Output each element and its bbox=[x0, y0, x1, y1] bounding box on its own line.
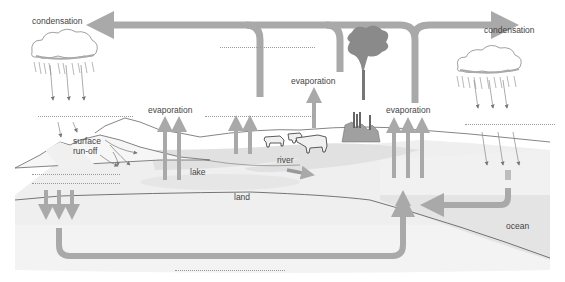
answer-blank-right-precipitation[interactable] bbox=[465, 124, 555, 125]
answer-blank-left-precipitation[interactable] bbox=[38, 116, 133, 117]
cloud-left bbox=[32, 29, 98, 100]
factory bbox=[342, 25, 388, 142]
label-condensation-left: condensation bbox=[32, 17, 83, 26]
cloud-right bbox=[457, 45, 521, 108]
label-surface: surface bbox=[73, 137, 101, 146]
label-evaporation-lake: evaporation bbox=[148, 106, 192, 115]
ocean-drop-marker bbox=[505, 170, 511, 180]
label-river: river bbox=[277, 156, 294, 165]
answer-blank-infiltration-2[interactable] bbox=[32, 183, 120, 184]
label-condensation-right: condensation bbox=[484, 26, 535, 35]
answer-blank-top-center[interactable] bbox=[220, 47, 315, 48]
label-evaporation-center: evaporation bbox=[291, 77, 335, 86]
answer-blank-infiltration-1[interactable] bbox=[32, 174, 120, 175]
answer-blank-bottom[interactable] bbox=[175, 270, 285, 271]
label-land: land bbox=[234, 193, 250, 202]
answer-blank-above-lake[interactable] bbox=[205, 116, 313, 117]
cycle-flow-arrows bbox=[100, 25, 505, 103]
label-ocean: ocean bbox=[506, 222, 529, 231]
label-run-off: run-off bbox=[73, 147, 97, 156]
label-lake: lake bbox=[190, 168, 206, 177]
label-evaporation-ocean: evaporation bbox=[386, 106, 430, 115]
water-cycle-diagram: condensation condensation evaporation ev… bbox=[0, 0, 565, 282]
